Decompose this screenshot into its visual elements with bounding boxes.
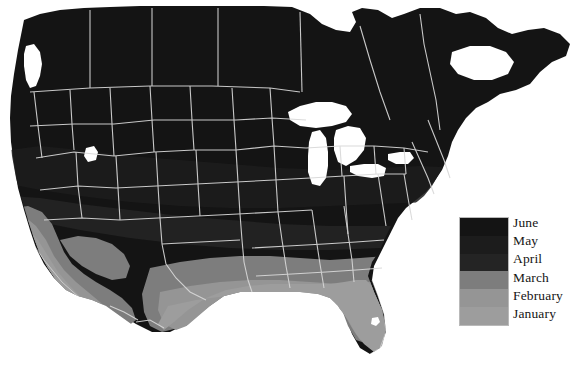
legend-label-january: January	[513, 305, 571, 323]
frost-date-legend: June May April March February January	[459, 217, 569, 327]
legend-label-march: March	[513, 269, 571, 287]
legend-swatch-april	[460, 254, 508, 272]
north-america-choropleth-map	[0, 0, 574, 385]
legend-swatch-february	[460, 289, 508, 307]
legend-label-february: February	[513, 287, 571, 305]
legend-label-april: April	[513, 250, 571, 268]
legend-label-may: May	[513, 232, 571, 250]
legend-swatch-column	[459, 217, 509, 326]
legend-label-june: June	[513, 214, 571, 232]
map-figure: June May April March February January	[0, 0, 574, 385]
legend-swatch-june	[460, 218, 508, 236]
legend-swatch-may	[460, 236, 508, 254]
legend-swatch-january	[460, 307, 508, 325]
legend-swatch-march	[460, 271, 508, 289]
legend-label-column: June May April March February January	[513, 214, 571, 323]
